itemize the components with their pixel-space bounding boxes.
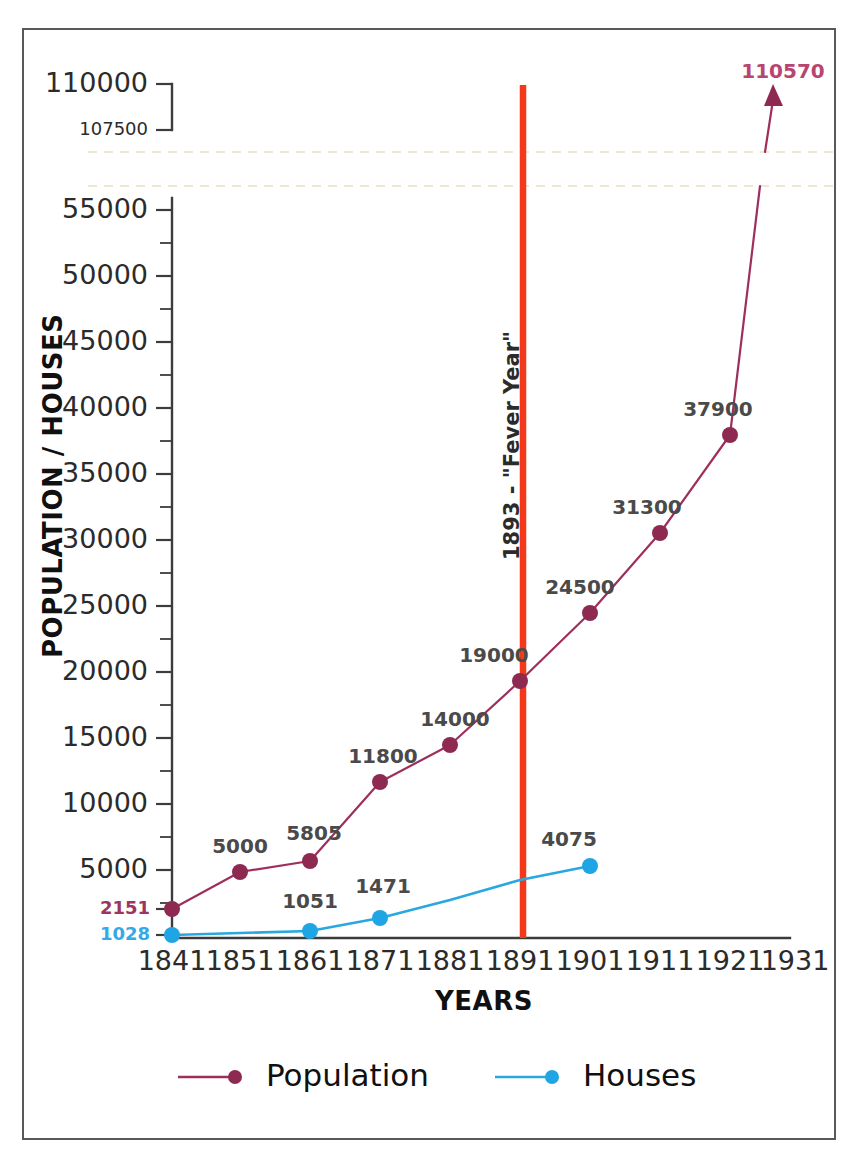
chart-figure: 110000 107500 55000 50000 45000 40000 35…	[0, 0, 857, 1172]
y-tick-35000: 35000	[62, 457, 148, 488]
chart-legend: Population Houses	[178, 1057, 696, 1093]
population-point-1871	[372, 774, 388, 790]
origin-label-houses: 1028	[100, 923, 150, 944]
y-tick-55000: 55000	[62, 193, 148, 224]
y-tick-40000: 40000	[62, 391, 148, 422]
fever-year-annotation: 1893 - "Fever Year"	[500, 85, 524, 938]
population-line-upper	[765, 100, 773, 152]
population-label-24500: 24500	[545, 575, 615, 599]
x-tick-1851: 1851	[206, 945, 275, 976]
legend-label-houses: Houses	[583, 1057, 696, 1093]
population-point-1851	[232, 864, 248, 880]
y-tick-45000: 45000	[62, 325, 148, 356]
population-label-5805: 5805	[286, 821, 342, 845]
x-tick-1841: 1841	[138, 945, 207, 976]
population-point-1891	[512, 673, 528, 689]
population-point-1881	[442, 737, 458, 753]
axis-break-marks	[88, 152, 838, 186]
population-label-5000: 5000	[212, 834, 268, 858]
population-point-1921	[722, 427, 738, 443]
y-tick-15000: 15000	[62, 721, 148, 752]
x-tick-1871: 1871	[346, 945, 415, 976]
houses-label-1471: 1471	[355, 874, 411, 898]
fever-year-label: 1893 - "Fever Year"	[500, 331, 524, 560]
y-tick-10000: 10000	[62, 787, 148, 818]
population-label-14000: 14000	[420, 707, 490, 731]
population-label-11800: 11800	[348, 744, 418, 768]
y-axis-title: POPULATION / HOUSES	[38, 313, 68, 658]
y-tick-110000: 110000	[45, 67, 148, 98]
houses-point-1871	[372, 910, 388, 926]
x-tick-1901: 1901	[556, 945, 625, 976]
houses-point-1841	[164, 927, 180, 943]
y-tick-25000: 25000	[62, 589, 148, 620]
series-population: 5000 5805 11800 14000 19000 24500 31300 …	[164, 59, 825, 917]
x-axis-labels: 1841 1851 1861 1871 1881 1891 1901 1911 …	[138, 945, 830, 976]
population-label-31300: 31300	[612, 495, 682, 519]
origin-value-labels: 2151 1028	[100, 897, 172, 944]
legend-label-population: Population	[266, 1057, 429, 1093]
origin-label-population: 2151	[100, 897, 150, 918]
population-point-1901	[582, 605, 598, 621]
houses-point-1901	[582, 858, 598, 874]
x-axis-title: YEARS	[434, 986, 533, 1016]
y-tick-107500: 107500	[79, 118, 148, 139]
houses-point-1861	[302, 923, 318, 939]
x-tick-1931: 1931	[761, 945, 830, 976]
houses-label-1051: 1051	[282, 889, 338, 913]
population-point-1861	[302, 853, 318, 869]
population-label-37900: 37900	[683, 397, 753, 421]
population-line	[172, 186, 760, 909]
population-point-1841	[164, 901, 180, 917]
x-tick-1881: 1881	[416, 945, 485, 976]
population-point-1911	[652, 525, 668, 541]
y-tick-30000: 30000	[62, 523, 148, 554]
chart-plot-area: 110000 107500 55000 50000 45000 40000 35…	[0, 0, 857, 1172]
y-tick-20000: 20000	[62, 655, 148, 686]
x-tick-1911: 1911	[626, 945, 695, 976]
population-label-19000: 19000	[459, 643, 529, 667]
y-tick-5000: 5000	[79, 853, 148, 884]
x-tick-1891: 1891	[486, 945, 555, 976]
legend-item-houses[interactable]: Houses	[495, 1057, 696, 1093]
population-label-110570: 110570	[741, 59, 825, 83]
y-tick-50000: 50000	[62, 259, 148, 290]
legend-item-population[interactable]: Population	[178, 1057, 429, 1093]
houses-label-4075: 4075	[541, 827, 597, 851]
population-arrow-icon	[764, 84, 783, 106]
legend-swatch-houses-dot	[545, 1070, 559, 1084]
y-axis-ticks	[156, 84, 172, 903]
x-tick-1921: 1921	[696, 945, 765, 976]
x-tick-1861: 1861	[276, 945, 345, 976]
legend-swatch-population-dot	[228, 1070, 242, 1084]
